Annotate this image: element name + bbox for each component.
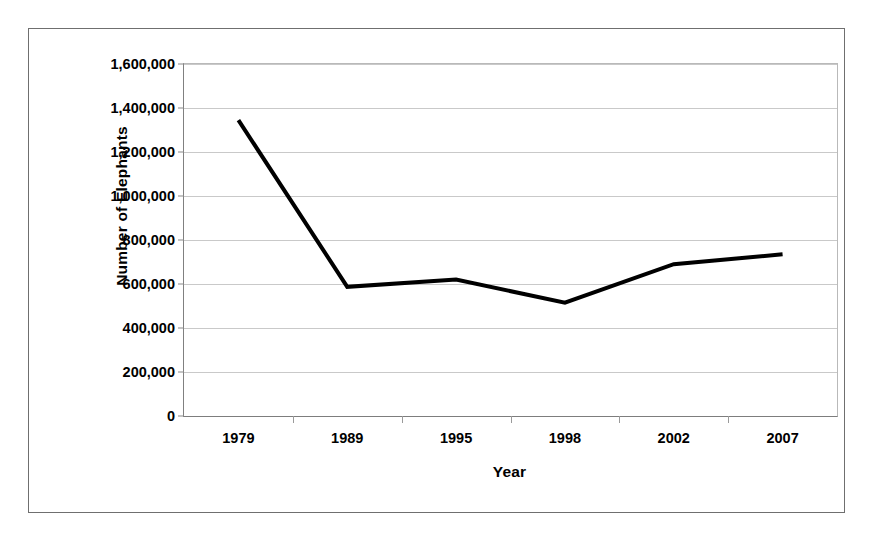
x-tick-label: 2002 <box>658 430 690 446</box>
x-tick-mark <box>619 416 620 423</box>
y-tick-label: 600,000 <box>123 276 175 292</box>
y-tick-label: 1,600,000 <box>110 56 175 72</box>
y-tick-label: 1,200,000 <box>110 144 175 160</box>
plot-area: 0200,000400,000600,000800,0001,000,0001,… <box>183 63 838 417</box>
x-tick-mark <box>293 416 294 423</box>
x-tick-label: 1979 <box>222 430 254 446</box>
x-axis-title: Year <box>183 463 836 481</box>
y-tick-label: 800,000 <box>123 232 175 248</box>
chart-figure: Number of Elephants 0200,000400,000600,0… <box>28 28 845 513</box>
x-tick-label: 1998 <box>549 430 581 446</box>
y-tick-label: 1,400,000 <box>110 100 175 116</box>
x-tick-mark <box>728 416 729 423</box>
y-tick-label: 0 <box>167 408 175 424</box>
x-tick-label: 1995 <box>440 430 472 446</box>
series-line-elephants <box>184 64 837 416</box>
x-tick-mark <box>402 416 403 423</box>
y-tick-label: 1,000,000 <box>110 188 175 204</box>
y-tick-label: 400,000 <box>123 320 175 336</box>
x-tick-label: 1989 <box>331 430 363 446</box>
y-tick-label: 200,000 <box>123 364 175 380</box>
x-tick-mark <box>511 416 512 423</box>
x-tick-label: 2007 <box>766 430 798 446</box>
